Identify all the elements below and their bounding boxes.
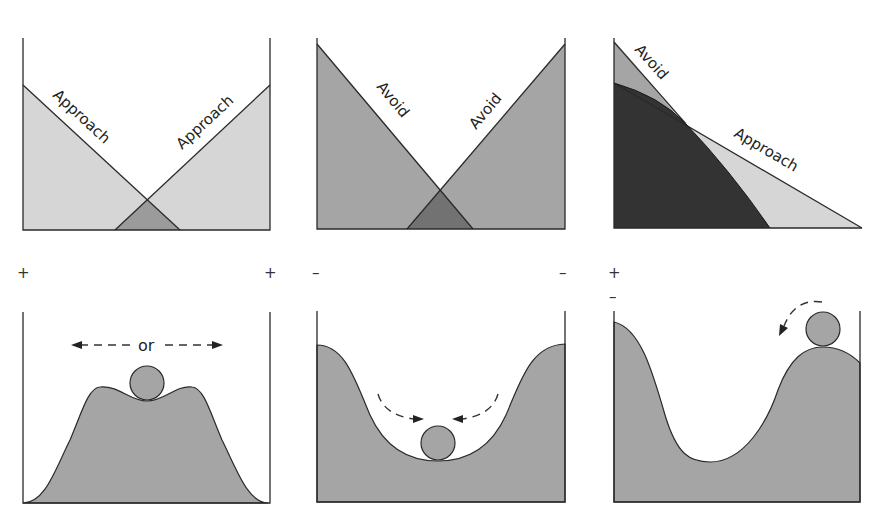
left-plus-sign: + <box>17 264 30 282</box>
minus-sign: – <box>609 288 617 306</box>
right-curved-dashed-arrow <box>462 394 498 419</box>
ball <box>806 312 840 346</box>
right-plus-sign: + <box>264 264 277 282</box>
or-label: or <box>138 336 155 355</box>
hill-landscape <box>23 387 268 503</box>
valley-landscape <box>317 344 565 502</box>
right-minus-sign: – <box>559 264 567 282</box>
left-arrowhead-icon <box>71 341 82 349</box>
panel-unstable-equilibrium: or <box>23 312 270 503</box>
conflict-diagram: Approach Approach + + Avoid Avoid – – Av… <box>0 0 883 531</box>
panel-ambivalent-equilibrium <box>614 302 860 503</box>
panel-stable-equilibrium <box>317 311 565 502</box>
panel-approach-avoid: Avoid Approach + – <box>608 38 862 306</box>
right-arrowhead-icon <box>212 341 223 349</box>
asymmetric-landscape <box>614 322 860 502</box>
dark-overlap-region <box>614 83 770 228</box>
left-curved-dashed-arrow <box>378 394 414 419</box>
left-minus-sign: – <box>312 264 320 282</box>
panel-approach-approach: Approach Approach + + <box>17 38 277 282</box>
left-avoid-label: Avoid <box>373 78 413 121</box>
left-arrowhead-icon <box>413 415 424 423</box>
plus-sign: + <box>608 264 621 282</box>
right-arrowhead-icon <box>452 415 463 423</box>
panel-avoid-avoid: Avoid Avoid – – <box>312 38 567 282</box>
ball <box>130 366 164 400</box>
ball <box>421 426 455 460</box>
arrowhead-icon <box>779 324 788 336</box>
